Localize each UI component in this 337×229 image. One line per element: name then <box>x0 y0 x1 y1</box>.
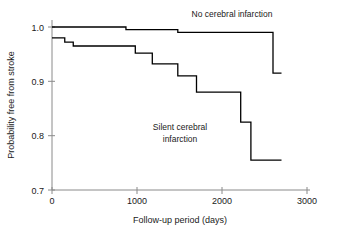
x-tick-label: 3000 <box>297 196 317 206</box>
y-tick-label: 0.8 <box>31 131 44 141</box>
y-axis-title: Probability free from stroke <box>6 51 16 159</box>
kaplan-meier-chart: 1.0 0.9 0.8 0.7 0 1000 2000 3000 Follow-… <box>0 0 337 229</box>
series-label-silent-cerebral-infarction-line1: Silent cerebral <box>153 122 207 132</box>
series-label-no-cerebral-infarction: No cerebral infarction <box>192 9 273 19</box>
y-axis-ticks: 1.0 0.9 0.8 0.7 <box>31 23 55 196</box>
y-tick-label: 0.9 <box>31 77 44 87</box>
curve-no-cerebral-infarction <box>52 27 282 73</box>
x-tick-label: 2000 <box>212 196 232 206</box>
x-tick-label: 0 <box>49 196 54 206</box>
x-tick-label: 1000 <box>127 196 147 206</box>
y-tick-label: 1.0 <box>31 23 44 33</box>
series-label-silent-cerebral-infarction-line2: infarction <box>163 134 198 144</box>
chart-canvas: 1.0 0.9 0.8 0.7 0 1000 2000 3000 Follow-… <box>0 0 337 229</box>
x-axis-title: Follow-up period (days) <box>133 215 227 225</box>
y-tick-label: 0.7 <box>31 186 44 196</box>
